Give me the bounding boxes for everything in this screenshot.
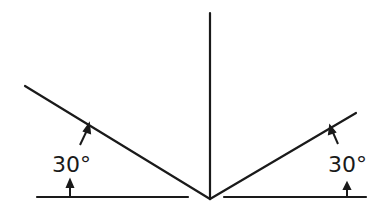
left-slanted-line [25, 86, 210, 199]
right-angle-label: 30° [328, 152, 367, 177]
left-angle-label: 30° [52, 152, 91, 177]
angle-diagram: 30° 30° [0, 0, 392, 219]
